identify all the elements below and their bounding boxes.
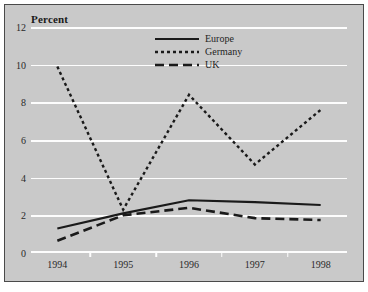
x-tick-label: 1997 <box>245 259 265 270</box>
x-minor-tick <box>155 253 157 257</box>
series-line-germany <box>57 67 320 210</box>
legend-item-germany: Germany <box>155 45 242 58</box>
x-tick-label: 1995 <box>113 259 133 270</box>
legend-label: UK <box>205 58 219 71</box>
y-axis-title: Percent <box>31 13 68 25</box>
legend-item-uk: UK <box>155 58 242 71</box>
y-tick-label: 12 <box>16 22 26 33</box>
legend-swatch-dotted <box>155 47 199 57</box>
legend-swatch-dashed <box>155 60 199 70</box>
chart-figure: Percent 024681012 19941995199619971998 E… <box>0 0 368 292</box>
y-tick-label: 6 <box>21 135 26 146</box>
legend-label: Europe <box>205 32 234 45</box>
x-tick-label: 1998 <box>311 259 331 270</box>
legend-label: Germany <box>205 45 242 58</box>
chart-frame: Percent 024681012 19941995199619971998 E… <box>4 4 364 282</box>
x-tick-label: 1994 <box>47 259 67 270</box>
y-tick-label: 4 <box>21 172 26 183</box>
legend-swatch-solid <box>155 34 199 44</box>
y-tick-label: 8 <box>21 97 26 108</box>
x-tick-label: 1996 <box>179 259 199 270</box>
x-minor-tick <box>221 253 223 257</box>
y-tick-label: 10 <box>16 59 26 70</box>
x-minor-tick <box>90 253 92 257</box>
x-minor-tick <box>287 253 289 257</box>
legend-item-europe: Europe <box>155 32 242 45</box>
chart-legend: EuropeGermanyUK <box>155 32 242 71</box>
y-tick-label: 2 <box>21 210 26 221</box>
y-tick-label: 0 <box>21 248 26 259</box>
series-line-uk <box>57 208 320 241</box>
